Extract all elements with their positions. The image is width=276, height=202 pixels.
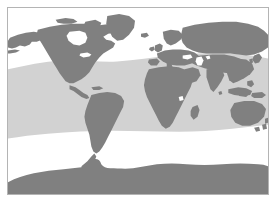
map-frame: [7, 7, 269, 195]
world-map-figure: [0, 0, 276, 202]
land-new-zealand: [265, 118, 268, 124]
map-canvas: [8, 8, 268, 194]
land-siberia: [181, 22, 268, 56]
